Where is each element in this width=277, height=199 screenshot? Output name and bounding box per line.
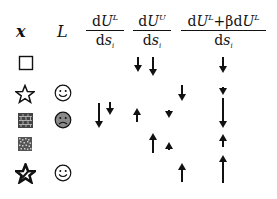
arrow-down-icon (219, 98, 227, 128)
happy-face-icon (54, 84, 72, 102)
arrow-down-icon (106, 102, 114, 115)
arrow-down-icon (178, 85, 186, 101)
arrow-down-icon (134, 57, 142, 72)
arrow-down-icon (149, 57, 157, 76)
header-dUU-dsi: dUU dsi (133, 14, 171, 50)
star-outline-icon (15, 84, 35, 104)
arrow-down-icon (165, 110, 173, 118)
header-combined: dUL+βdUL dsi (181, 14, 266, 50)
arrow-down-icon (95, 103, 103, 128)
arrow-up-icon (133, 108, 141, 122)
star-slashed-icon (15, 163, 36, 184)
arrow-down-icon (219, 57, 227, 73)
header-x: x (16, 22, 26, 41)
square-outline-icon (18, 55, 34, 71)
arrow-up-icon (219, 134, 227, 147)
arrow-up-icon (219, 155, 227, 183)
happy-face-icon (54, 164, 72, 182)
arrow-up-icon (178, 163, 186, 182)
arrow-up-icon (149, 133, 157, 153)
sad-face-icon (54, 111, 72, 129)
arrow-up-icon (165, 142, 173, 150)
brick-square-icon (18, 113, 33, 128)
header-L: L (57, 22, 68, 41)
dotted-square-icon (18, 137, 32, 151)
arrow-down-icon (219, 87, 227, 95)
header-dUL-dsi: dUL dsi (86, 14, 124, 50)
